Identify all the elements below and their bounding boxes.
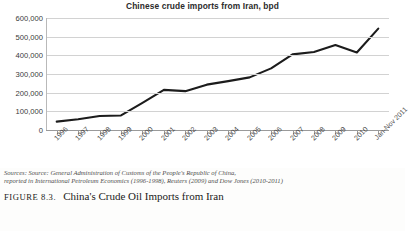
gridline bbox=[46, 55, 389, 56]
y-tick-label: 200,000 bbox=[16, 88, 43, 97]
gridline bbox=[46, 93, 389, 94]
figure-number: Figure 8.3. bbox=[4, 192, 56, 202]
chart-area: Chinese crude imports from Iran, bpd 010… bbox=[0, 0, 405, 168]
chart-title: Chinese crude imports from Iran, bpd bbox=[0, 1, 405, 11]
gridline bbox=[46, 111, 389, 112]
gridline bbox=[46, 74, 389, 75]
sources-note: Sources: Source: General Administration … bbox=[4, 169, 400, 185]
gridline bbox=[46, 18, 389, 19]
y-tick-label: 400,000 bbox=[16, 51, 43, 60]
sources-line-1: Sources: Source: General Administration … bbox=[4, 169, 400, 177]
y-tick-label: 0 bbox=[39, 126, 43, 135]
plot-area bbox=[46, 18, 389, 130]
gridline bbox=[46, 37, 389, 38]
y-tick-label: 300,000 bbox=[16, 70, 43, 79]
figure-caption: Figure 8.3.China's Crude Oil Imports fro… bbox=[4, 190, 400, 202]
sources-line-2: reported in International Petroleum Econ… bbox=[4, 177, 400, 185]
y-axis-labels: 0100,000200,000300,000400,000500,000600,… bbox=[0, 0, 43, 168]
y-axis-line bbox=[46, 18, 47, 131]
y-tick-label: 100,000 bbox=[16, 107, 43, 116]
figure-caption-text: China's Crude Oil Imports from Iran bbox=[63, 190, 224, 202]
y-tick-label: 600,000 bbox=[16, 14, 43, 23]
data-line bbox=[57, 29, 379, 122]
y-tick-label: 500,000 bbox=[16, 32, 43, 41]
